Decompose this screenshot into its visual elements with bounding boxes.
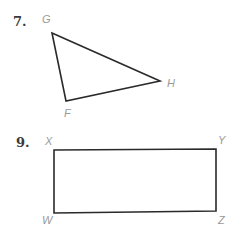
rectangle-wxyz: [54, 149, 216, 213]
problem-number: 9.: [16, 135, 30, 150]
triangle-fgh: [52, 33, 160, 101]
vertex-label-y: Y: [218, 134, 225, 146]
geometry-figures: [0, 0, 234, 244]
vertex-label-x: X: [45, 135, 52, 147]
vertex-label-w: W: [42, 214, 52, 226]
vertex-label-z: Z: [218, 214, 225, 226]
